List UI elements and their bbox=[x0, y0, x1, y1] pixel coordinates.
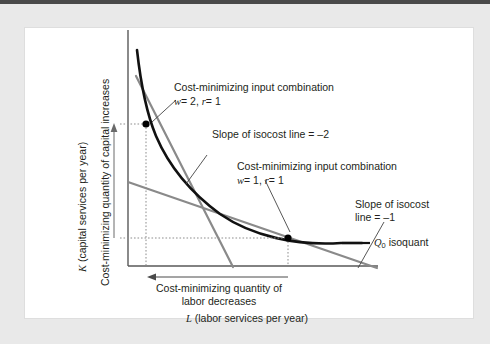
annotation-point-a-params: w= 2, r= 1 bbox=[174, 95, 221, 108]
isoquant-isocost-diagram: Cost-minimizing input combination w= 2, … bbox=[0, 0, 490, 344]
leader-point-a bbox=[152, 100, 176, 122]
isoquant-label-word: isoquant bbox=[389, 236, 429, 248]
capital-arrow-head bbox=[111, 123, 118, 132]
tangency-point-b-marker bbox=[284, 234, 291, 241]
annotation-point-b-params: w= 1, r= 1 bbox=[237, 174, 284, 187]
x-axis-title-text: (labor services per year) bbox=[195, 312, 308, 324]
annotation-point-a-title: Cost-minimizing input combination bbox=[174, 81, 334, 94]
annotation-slope-a: Slope of isocost line = –2 bbox=[212, 128, 329, 141]
y-axis-title-text: (capital services per year) bbox=[76, 142, 88, 262]
x-axis-title-symbol: L bbox=[186, 313, 192, 324]
point-b-r-value: = 1 bbox=[269, 174, 284, 186]
y-axis-title: K (capital services per year) bbox=[76, 142, 88, 272]
x-axis-title: L (labor services per year) bbox=[186, 312, 308, 324]
figure-root: Cost-minimizing input combination w= 2, … bbox=[0, 0, 490, 344]
y-axis-title-symbol: K bbox=[77, 265, 88, 272]
x-arrow-caption-line1: Cost-minimizing quantity of bbox=[146, 282, 292, 295]
labor-decrease-arrow bbox=[147, 273, 288, 280]
y-arrow-caption: Cost-minimizing quantity of capital incr… bbox=[99, 79, 111, 286]
capital-increase-arrow bbox=[111, 123, 118, 238]
isoquant-q-symbol: Q bbox=[374, 237, 382, 248]
point-b-w-value: = 1, bbox=[244, 174, 262, 186]
x-arrow-caption-line2: labor decreases bbox=[146, 295, 292, 308]
annotation-slope-b-line2: line = –1 bbox=[355, 211, 395, 224]
leader-slope-a bbox=[186, 155, 207, 184]
leader-point-b bbox=[265, 180, 290, 232]
isoquant-q-subscript: 0 bbox=[382, 241, 386, 250]
x-arrow-caption: Cost-minimizing quantity of labor decrea… bbox=[146, 282, 292, 308]
annotation-slope-b-line1: Slope of isocost bbox=[355, 198, 429, 211]
guide-lines-group bbox=[120, 124, 288, 266]
tangency-point-a-marker bbox=[142, 120, 149, 127]
point-a-w-value: = 2, bbox=[181, 95, 199, 107]
annotation-point-b-title: Cost-minimizing input combination bbox=[237, 160, 397, 173]
isocost-line-slope-1 bbox=[128, 182, 377, 268]
point-b-w-symbol: w bbox=[237, 175, 244, 186]
labor-arrow-head bbox=[147, 273, 156, 280]
point-a-w-symbol: w bbox=[174, 96, 181, 107]
annotation-isoquant-label: Q0 isoquant bbox=[374, 236, 428, 252]
point-a-r-value: = 1 bbox=[206, 95, 221, 107]
